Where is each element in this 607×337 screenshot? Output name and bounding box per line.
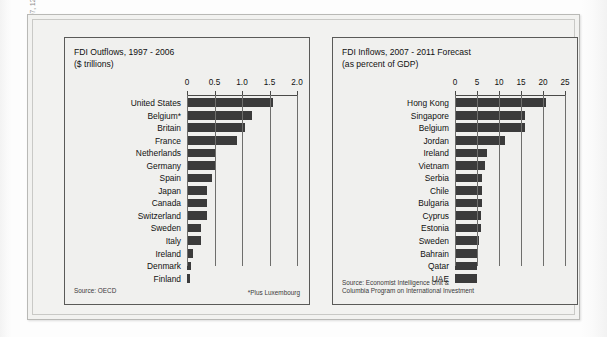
gridline [543, 95, 544, 266]
figure-frame: FDI Outflows, 1997 - 2006 ($ trillions) … [27, 14, 580, 320]
chart-panel-inflows: FDI Inflows, 2007 - 2011 Forecast (as pe… [332, 37, 578, 305]
x-tick-label: 0 [453, 78, 458, 87]
category-label: Bulgaria [329, 197, 453, 210]
x-tick-label: 0.5 [209, 78, 220, 87]
bar [455, 123, 525, 132]
chart-title-main: FDI Outflows, 1997 - 2006 [74, 47, 174, 57]
category-label: Bahrain [329, 248, 453, 261]
gridline [242, 95, 243, 266]
category-label: Hong Kong [329, 97, 453, 110]
gridline [215, 95, 216, 266]
chart-title-main: FDI Inflows, 2007 - 2011 Forecast [342, 47, 471, 57]
source-note-outflows: Source: OECD [74, 287, 116, 296]
x-tick-label: 20 [538, 78, 547, 87]
category-label: Singapore [329, 110, 453, 123]
x-tick-label: 0 [185, 78, 190, 87]
category-label: Ireland [61, 248, 185, 261]
x-tick-label: 1.5 [264, 78, 275, 87]
category-label: Jordan [329, 135, 453, 148]
category-label: Italy [61, 235, 185, 248]
bar [455, 111, 525, 120]
bar [455, 262, 477, 271]
page-background: FDI outflows, Economist (June 30, 2007, … [0, 0, 607, 337]
plot-area-outflows: 00.51.01.52.0 United StatesBelgium*Brita… [65, 78, 309, 266]
chart-subtitle: ($ trillions) [74, 59, 174, 71]
page-gutter-right [581, 0, 607, 337]
bar [187, 224, 201, 233]
bar [455, 136, 505, 145]
category-label: United States [61, 97, 185, 110]
category-label: Canada [61, 197, 185, 210]
gridline [187, 95, 188, 266]
chart-subtitle: (as percent of GDP) [342, 59, 471, 71]
bar [455, 186, 482, 195]
gridline [455, 95, 456, 266]
bar [187, 123, 245, 132]
source-note-inflows: Source: Economist Intelligence Unit & Co… [342, 279, 474, 296]
category-label: Chile [329, 185, 453, 198]
category-label: Sweden [329, 235, 453, 248]
bar [455, 161, 485, 170]
category-label: Cyprus [329, 210, 453, 223]
gridline [521, 95, 522, 266]
category-label: Finland [61, 273, 185, 286]
bar [187, 161, 215, 170]
x-tick-label: 5 [475, 78, 480, 87]
category-label: Qatar [329, 260, 453, 273]
bar [187, 98, 273, 107]
x-tick-label: 25 [560, 78, 569, 87]
x-axis-line [455, 95, 565, 96]
bar [187, 274, 190, 283]
bar [455, 98, 546, 107]
category-label: Belgium [329, 122, 453, 135]
category-label: Sweden [61, 222, 185, 235]
gridline [297, 95, 298, 266]
bar [455, 149, 487, 158]
category-label: Estonia [329, 222, 453, 235]
chart-title-inflows: FDI Inflows, 2007 - 2011 Forecast (as pe… [342, 47, 471, 70]
category-label: Switzerland [61, 210, 185, 223]
category-label: France [61, 135, 185, 148]
plot-area-inflows: 0510152025 Hong KongSingaporeBelgiumJord… [333, 78, 577, 266]
bar [455, 249, 478, 258]
category-label: Serbia [329, 172, 453, 185]
x-axis-outflows: 00.51.01.52.0 [65, 78, 309, 90]
bar-row: Finland [65, 273, 309, 286]
category-label: Britain [61, 122, 185, 135]
source-note-line-1: Source: Economist Intelligence Unit & [342, 279, 449, 286]
gridline [565, 95, 566, 266]
x-tick-label: 2.0 [291, 78, 302, 87]
gridline [270, 95, 271, 266]
page-gutter-left [0, 0, 12, 337]
gridline [477, 95, 478, 266]
bar [187, 136, 237, 145]
bar [187, 199, 207, 208]
bar [187, 149, 215, 158]
footnote-outflows: *Plus Luxembourg [248, 289, 300, 296]
category-label: Vietnam [329, 160, 453, 173]
category-label: Denmark [61, 260, 185, 273]
category-label: Germany [61, 160, 185, 173]
category-label: Ireland [329, 147, 453, 160]
gridline [499, 95, 500, 266]
category-label: Japan [61, 185, 185, 198]
category-label: Netherlands [61, 147, 185, 160]
bar [187, 211, 207, 220]
x-tick-label: 1.0 [236, 78, 247, 87]
bar [187, 186, 207, 195]
bar [455, 236, 479, 245]
category-label: Belgium* [61, 110, 185, 123]
bar [455, 174, 482, 183]
x-tick-label: 15 [516, 78, 525, 87]
source-note-line-2: Columbia Program on International Invest… [342, 287, 474, 294]
chart-panel-outflows: FDI Outflows, 1997 - 2006 ($ trillions) … [64, 37, 310, 305]
bar [187, 236, 201, 245]
x-axis-inflows: 0510152025 [333, 78, 577, 90]
chart-title-outflows: FDI Outflows, 1997 - 2006 ($ trillions) [74, 47, 174, 70]
x-tick-label: 10 [494, 78, 503, 87]
bar [187, 174, 212, 183]
category-label: Spain [61, 172, 185, 185]
